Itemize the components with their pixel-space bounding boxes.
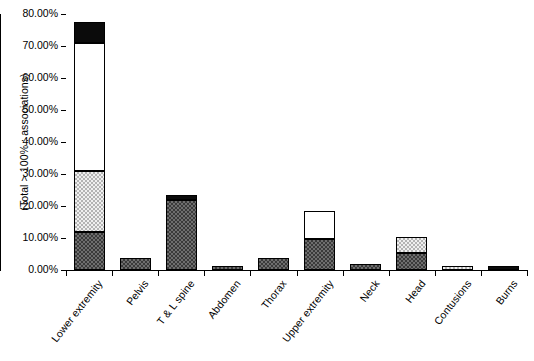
x-axis-label-text: T & L spine (155, 278, 197, 327)
y-tick-label: 40.00% (0, 136, 58, 147)
bar-segment (212, 266, 243, 270)
bar-segment (304, 211, 335, 239)
y-tick-label-text: 80.00% (4, 8, 58, 19)
y-tick-mark (61, 174, 66, 175)
x-axis-label-text: Burns (494, 278, 520, 307)
y-tick-mark (61, 110, 66, 111)
x-axis-label-text: Thorax (260, 278, 289, 311)
x-axis-label-text: Lower extremity (49, 278, 104, 344)
y-tick-label: 0.00% (0, 264, 58, 275)
y-tick-label-text: 60.00% (4, 72, 58, 83)
y-tick-label-text: 30.00% (4, 168, 58, 179)
x-tick-mark (66, 271, 67, 276)
x-axis-label-text: Upper extremity (280, 278, 335, 344)
y-tick-mark (61, 46, 66, 47)
y-tick-label-text: 0.00% (4, 264, 58, 275)
bar-segment (396, 237, 427, 253)
bar-chart: (Total > 100% : associations) 0.00%10.00… (0, 0, 534, 361)
y-tick-label-text: 10.00% (4, 232, 58, 243)
bar-segment (396, 253, 427, 270)
x-axis-label-text: Head (403, 278, 427, 305)
bar-segment (304, 239, 335, 270)
y-tick-label: 60.00% (0, 72, 58, 83)
bar-segment (74, 232, 105, 270)
bar-group[interactable] (304, 14, 335, 270)
y-tick-label: 50.00% (0, 104, 58, 115)
bar-group[interactable] (488, 14, 519, 270)
bar-segment (74, 43, 105, 171)
bar-segment (120, 258, 151, 270)
bar-group[interactable] (74, 14, 105, 270)
bar-group[interactable] (396, 14, 427, 270)
y-tick-label: 30.00% (0, 168, 58, 179)
x-axis-label-text: Pelvis (124, 278, 150, 307)
y-tick-mark (61, 14, 66, 15)
bar-segment (350, 264, 381, 270)
bar-segment (442, 266, 473, 270)
y-tick-label-text: 70.00% (4, 40, 58, 51)
y-tick-mark (61, 206, 66, 207)
y-tick-mark (61, 238, 66, 239)
y-tick-mark (61, 142, 66, 143)
bar-segment (74, 22, 105, 43)
y-tick-label-text: 50.00% (4, 104, 58, 115)
bar-group[interactable] (258, 14, 289, 270)
bar-group[interactable] (212, 14, 243, 270)
x-axis-label-text: Contusions (432, 278, 474, 327)
bar-group[interactable] (442, 14, 473, 270)
bar-group[interactable] (166, 14, 197, 270)
bar-segment (258, 258, 289, 270)
y-tick-label: 20.00% (0, 200, 58, 211)
x-axis-label-text: Abdomen (206, 278, 243, 321)
y-tick-label: 10.00% (0, 232, 58, 243)
y-tick-label: 70.00% (0, 40, 58, 51)
y-tick-label-text: 40.00% (4, 136, 58, 147)
bar-segment (166, 200, 197, 270)
y-tick-label: 80.00% (0, 8, 58, 19)
x-axis-label-text: Neck (358, 278, 382, 304)
y-tick-label-text: 20.00% (4, 200, 58, 211)
y-tick-mark (61, 78, 66, 79)
bar-segment (488, 266, 519, 270)
bar-segment (166, 195, 197, 199)
bar-segment (74, 171, 105, 232)
